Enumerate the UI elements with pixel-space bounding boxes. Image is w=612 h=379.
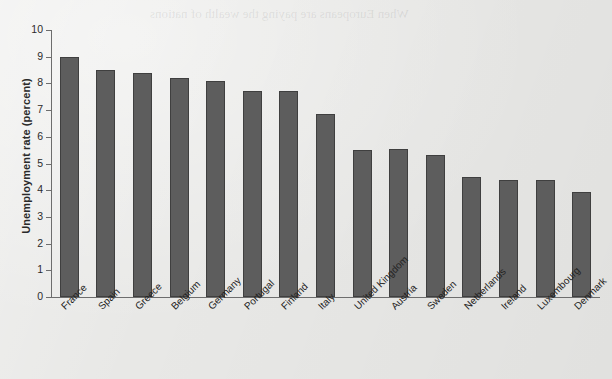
bar [536,180,555,297]
bar [170,78,189,297]
bar-chart: Unemployment rate (percent) 012345678910… [0,0,612,379]
y-tick-mark [46,190,52,191]
y-tick-mark [46,297,52,298]
y-tick-label: 7 [21,103,43,115]
y-tick-label: 4 [21,183,43,195]
chart-page: When Europeans are paying the wealth of … [0,0,612,379]
bar [279,91,298,297]
y-tick-label: 2 [21,237,43,249]
y-tick-mark [46,244,52,245]
y-tick-mark [46,217,52,218]
y-tick-mark [46,137,52,138]
bar [316,114,335,297]
y-tick-mark [46,83,52,84]
y-tick-mark [46,30,52,31]
bar [426,155,445,297]
y-tick-mark [46,57,52,58]
y-tick-mark [46,270,52,271]
bar [206,81,225,297]
bar [60,57,79,297]
y-tick-label: 0 [21,290,43,302]
y-tick-mark [46,164,52,165]
bar [353,150,372,297]
y-tick-label: 10 [21,23,43,35]
y-tick-label: 5 [21,157,43,169]
y-tick-mark [46,110,52,111]
y-tick-label: 6 [21,130,43,142]
bar [96,70,115,297]
bar [133,73,152,297]
bar [462,177,481,297]
bar [243,91,262,297]
y-tick-label: 1 [21,263,43,275]
y-tick-label: 8 [21,76,43,88]
y-tick-label: 9 [21,50,43,62]
bar [572,192,591,297]
y-tick-label: 3 [21,210,43,222]
